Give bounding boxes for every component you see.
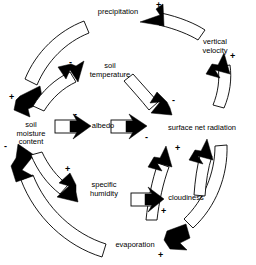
sign-specific-humidity-plus: +	[65, 165, 70, 174]
node-label-specific-humidity: specific humidity	[76, 181, 132, 198]
node-label-soil-temperature: soil temperature	[79, 62, 141, 79]
link-netradiation-to-vertvel	[206, 53, 231, 108]
sign-albedo-minus-left: -	[74, 110, 77, 119]
sign-net-radiation-plus-low: +	[175, 144, 180, 153]
sign-evaporation-plus: +	[158, 251, 163, 260]
node-label-surface-net-radiation: surface net radiation	[154, 124, 250, 133]
sign-soil-temperature-minus: -	[69, 58, 72, 67]
node-label-evaporation: evaporation	[101, 241, 169, 250]
link-soiltemp-to-netradiation	[124, 74, 172, 115]
node-label-albedo: albedo	[84, 122, 122, 131]
sign-vertical-velocity-plus: +	[230, 52, 235, 61]
diagram-canvas: precipitation vertical velocity soil tem…	[0, 0, 256, 265]
sign-albedo-minus-right: -	[145, 133, 148, 142]
sign-soil-moisture-minus: -	[4, 142, 7, 151]
sign-net-radiation-minus-top: -	[172, 96, 175, 105]
node-label-precipitation: precipitation	[82, 8, 154, 17]
node-label-vertical-velocity: vertical velocity	[186, 38, 244, 55]
sign-precipitation-plus: +	[156, 1, 161, 10]
sign-cloudiness-plus: +	[161, 207, 166, 216]
sign-soil-moisture-plus: +	[9, 93, 14, 102]
link-evaporation-to-soilmoisture	[11, 144, 106, 257]
node-label-cloudiness: cloudiness	[159, 194, 213, 203]
node-label-soil-moisture-content: soil moisture content	[2, 121, 60, 147]
